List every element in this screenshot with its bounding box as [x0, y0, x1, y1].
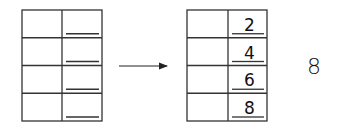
left-table [22, 10, 102, 121]
side-label: 8 [307, 54, 321, 79]
diagram-canvas: 2468 8 [0, 0, 340, 130]
right-table: 2468 [187, 10, 267, 121]
cell-value: 8 [244, 98, 255, 118]
cell-value: 4 [244, 43, 255, 63]
cell-value: 2 [244, 15, 255, 35]
cell-value: 6 [244, 70, 255, 90]
